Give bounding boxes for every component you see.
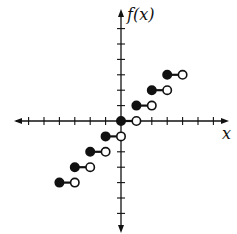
- open-dot-icon: [163, 86, 171, 94]
- y-axis-label: f(x): [126, 5, 154, 24]
- open-dot-icon: [71, 178, 79, 186]
- closed-dot-icon: [55, 178, 63, 186]
- closed-dot-icon: [86, 148, 94, 156]
- open-dot-icon: [132, 117, 140, 125]
- x-axis-left-arrow-icon: [14, 118, 22, 124]
- y-axis-up-arrow-icon: [118, 9, 124, 17]
- step-segment: [132, 101, 156, 109]
- open-dot-icon: [148, 101, 156, 109]
- step-segment: [117, 117, 141, 125]
- x-axis-label: x: [222, 124, 231, 143]
- step-function-plot: f(x) x: [0, 0, 237, 234]
- closed-dot-icon: [117, 117, 125, 125]
- closed-dot-icon: [71, 163, 79, 171]
- step-segment: [163, 71, 187, 79]
- open-dot-icon: [86, 163, 94, 171]
- step-segment: [148, 86, 172, 94]
- closed-dot-icon: [148, 86, 156, 94]
- step-segment: [101, 132, 125, 140]
- open-dot-icon: [101, 148, 109, 156]
- closed-dot-icon: [163, 71, 171, 79]
- closed-dot-icon: [132, 101, 140, 109]
- open-dot-icon: [178, 71, 186, 79]
- step-segment: [71, 163, 95, 171]
- closed-dot-icon: [101, 132, 109, 140]
- open-dot-icon: [117, 132, 125, 140]
- step-segment: [86, 148, 110, 156]
- y-axis-down-arrow-icon: [118, 225, 124, 233]
- step-segment: [55, 178, 79, 186]
